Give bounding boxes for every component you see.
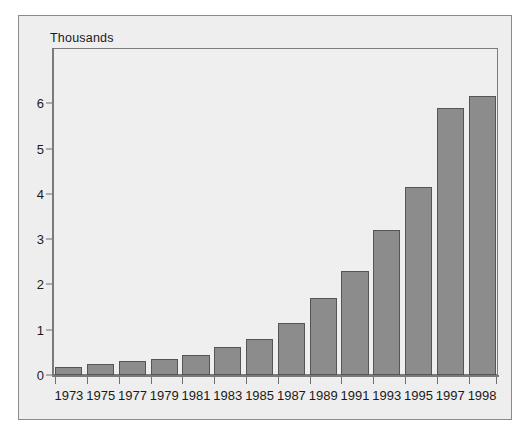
chart-title: Thousands [50,31,114,45]
chart-figure: Thousands 012345619731975197719791981198… [0,0,532,436]
plot-area [52,48,498,375]
y-axis-line [52,48,54,376]
x-axis-line [52,375,499,377]
